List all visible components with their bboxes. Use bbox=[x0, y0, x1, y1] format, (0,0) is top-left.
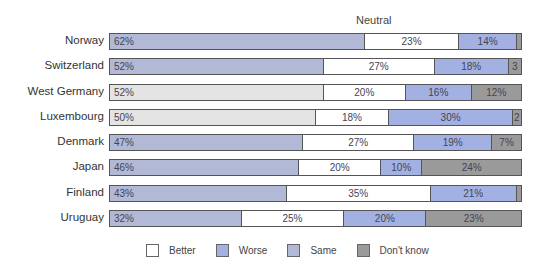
bar-segment-dont-know: 2 bbox=[513, 110, 521, 125]
legend-swatch bbox=[146, 244, 159, 257]
row-label: Switzerland bbox=[45, 59, 104, 71]
stacked-bar: 32%25%20%23% bbox=[109, 210, 522, 227]
row-label: Luxembourg bbox=[40, 110, 104, 122]
bar-segment-better: 27% bbox=[324, 59, 435, 74]
bar-segment-worse: 14% bbox=[459, 34, 517, 49]
chart-row: Finland 43%35%21% bbox=[0, 185, 548, 202]
bar-segment-worse: 16% bbox=[406, 85, 472, 100]
bar-segment-same: 46% bbox=[110, 160, 299, 175]
chart-row: Luxembourg 50%18%30%2 bbox=[0, 109, 548, 126]
stacked-bar: 50%18%30%2 bbox=[109, 109, 522, 126]
chart-row: Denmark 47%27%19%7% bbox=[0, 134, 548, 151]
bar-segment-worse: 10% bbox=[381, 160, 422, 175]
bar-segment-better: 35% bbox=[287, 186, 431, 201]
bar-segment-dont-know bbox=[517, 186, 521, 201]
stacked-bar: 62%23%14% bbox=[109, 33, 522, 50]
bar-segment-worse: 19% bbox=[414, 135, 492, 150]
bar-segment-better: 18% bbox=[316, 110, 390, 125]
neutral-annotation: Neutral bbox=[356, 14, 391, 26]
chart-legend: Better Worse Same Don't know bbox=[146, 244, 449, 257]
bar-segment-same: 52% bbox=[110, 59, 324, 74]
bar-segment-worse: 18% bbox=[435, 59, 509, 74]
stacked-bar: 52%27%18%3 bbox=[109, 58, 522, 75]
legend-swatch bbox=[287, 244, 300, 257]
bar-segment-dont-know: 23% bbox=[426, 211, 521, 226]
legend-label: Better bbox=[169, 245, 196, 256]
bar-segment-dont-know: 12% bbox=[472, 85, 521, 100]
bar-segment-better: 23% bbox=[365, 34, 460, 49]
chart-row: West Germany 52%20%16%12% bbox=[0, 84, 548, 101]
legend-label: Same bbox=[310, 245, 336, 256]
bar-segment-better: 25% bbox=[242, 211, 345, 226]
legend-item-better: Better bbox=[146, 244, 196, 257]
bar-segment-dont-know: 24% bbox=[422, 160, 521, 175]
bar-segment-better: 20% bbox=[324, 85, 406, 100]
bar-segment-better: 20% bbox=[299, 160, 381, 175]
row-label: West Germany bbox=[28, 85, 104, 97]
legend-item-same: Same bbox=[287, 244, 336, 257]
chart-row: Norway 62%23%14% bbox=[0, 33, 548, 50]
stacked-bar: 46%20%10%24% bbox=[109, 159, 522, 176]
bar-segment-same: 47% bbox=[110, 135, 303, 150]
stacked-bar: 43%35%21% bbox=[109, 185, 522, 202]
bar-segment-better: 27% bbox=[303, 135, 414, 150]
chart-row: Japan 46%20%10%24% bbox=[0, 159, 548, 176]
bar-segment-dont-know: 3 bbox=[509, 59, 521, 74]
bar-segment-same: 52% bbox=[110, 85, 324, 100]
bar-segment-same: 50% bbox=[110, 110, 316, 125]
row-label: Norway bbox=[65, 34, 104, 46]
chart-row: Switzerland 52%27%18%3 bbox=[0, 58, 548, 75]
chart-row: Uruguay 32%25%20%23% bbox=[0, 210, 548, 227]
row-label: Finland bbox=[66, 186, 104, 198]
row-label: Japan bbox=[73, 160, 104, 172]
legend-label: Worse bbox=[239, 245, 268, 256]
bar-segment-worse: 30% bbox=[389, 110, 512, 125]
row-label: Uruguay bbox=[61, 211, 104, 223]
bar-segment-same: 32% bbox=[110, 211, 242, 226]
bar-segment-dont-know: 7% bbox=[492, 135, 521, 150]
row-label: Denmark bbox=[57, 135, 104, 147]
bar-segment-same: 62% bbox=[110, 34, 365, 49]
legend-swatch bbox=[357, 244, 370, 257]
stacked-bar: 47%27%19%7% bbox=[109, 134, 522, 151]
legend-label: Don't know bbox=[380, 245, 429, 256]
legend-swatch bbox=[216, 244, 229, 257]
legend-item-dont-know: Don't know bbox=[357, 244, 429, 257]
stacked-bar: 52%20%16%12% bbox=[109, 84, 522, 101]
bar-segment-same: 43% bbox=[110, 186, 287, 201]
bar-segment-worse: 20% bbox=[344, 211, 426, 226]
bar-segment-dont-know bbox=[517, 34, 521, 49]
bar-segment-worse: 21% bbox=[431, 186, 517, 201]
legend-item-worse: Worse bbox=[216, 244, 268, 257]
